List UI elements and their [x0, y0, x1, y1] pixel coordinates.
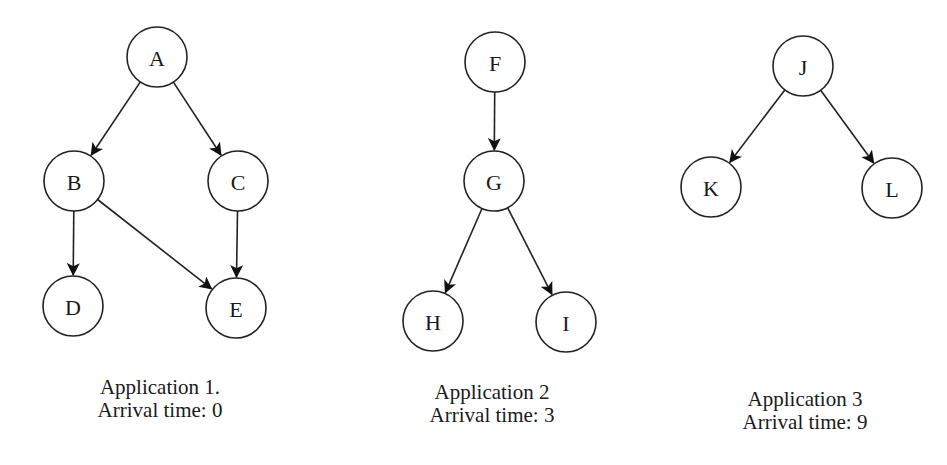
application-1-title: Application 1.: [30, 376, 290, 399]
node-label: A: [149, 46, 165, 71]
edge-g-to-h: [445, 209, 482, 293]
node-label: L: [885, 177, 898, 202]
node-b: B: [44, 151, 104, 211]
edge-j-to-l: [821, 90, 874, 163]
application-3-caption: Application 3 Arrival time: 9: [675, 388, 935, 434]
node-i: I: [536, 292, 596, 352]
edge-a-to-c: [173, 82, 221, 155]
node-c: C: [208, 151, 268, 211]
node-l: L: [862, 158, 922, 218]
application-2-title: Application 2: [362, 381, 622, 404]
node-g: G: [464, 151, 524, 211]
application-2-caption: Application 2 Arrival time: 3: [362, 381, 622, 427]
node-f: F: [465, 32, 525, 92]
application-2-arrival-time: Arrival time: 3: [362, 404, 622, 427]
edge-c-to-e: [237, 211, 238, 277]
node-k: K: [681, 157, 741, 217]
edge-b-to-d: [73, 211, 74, 275]
task-graphs-figure: ABCDEFGHIJKL Application 1. Arrival time…: [0, 0, 947, 465]
application-1-caption: Application 1. Arrival time: 0: [30, 376, 290, 422]
node-a: A: [127, 27, 187, 87]
application-3-arrival-time: Arrival time: 9: [675, 411, 935, 434]
node-label: E: [229, 297, 242, 322]
nodes-layer: ABCDEFGHIJKL: [43, 27, 922, 352]
node-label: B: [67, 170, 82, 195]
node-label: J: [799, 55, 808, 80]
edge-b-to-e: [98, 200, 212, 289]
node-h: H: [403, 291, 463, 351]
edge-a-to-b: [91, 82, 140, 155]
node-j: J: [773, 36, 833, 96]
node-d: D: [43, 276, 103, 336]
node-e: E: [206, 278, 266, 338]
node-label: K: [703, 176, 719, 201]
node-label: I: [562, 311, 569, 336]
edge-g-to-i: [508, 208, 552, 295]
node-label: H: [425, 310, 441, 335]
node-label: G: [486, 170, 502, 195]
application-3-title: Application 3: [675, 388, 935, 411]
node-label: D: [65, 295, 81, 320]
edge-j-to-k: [730, 90, 785, 162]
node-label: F: [489, 51, 501, 76]
application-1-arrival-time: Arrival time: 0: [30, 399, 290, 422]
node-label: C: [231, 170, 246, 195]
